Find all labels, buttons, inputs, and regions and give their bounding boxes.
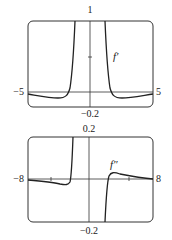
- chart-f-double-prime: 0.2 −0.2 −8 8 f″: [13, 123, 161, 236]
- x-left-label: −8: [13, 173, 24, 184]
- chart-figure: 1 −0.2 −5 5 f′ 0.2 −0.2 −8 8 f″: [0, 0, 172, 240]
- y-top-label: 1: [88, 4, 93, 15]
- x-right-label: 8: [156, 173, 161, 184]
- x-right-label: 5: [156, 86, 161, 97]
- chart-f-prime: 1 −0.2 −5 5 f′: [13, 4, 161, 119]
- curve-label: f″: [110, 158, 118, 170]
- y-bottom-label: −0.2: [80, 225, 98, 236]
- y-bottom-label: −0.2: [81, 108, 99, 119]
- plot-frame: [28, 21, 153, 107]
- y-top-label: 0.2: [83, 123, 96, 134]
- curve-label: f′: [113, 50, 119, 62]
- x-left-label: −5: [13, 86, 24, 97]
- plot-frame: [28, 137, 153, 222]
- curve-left: [28, 21, 75, 98]
- curve-left: [28, 137, 73, 185]
